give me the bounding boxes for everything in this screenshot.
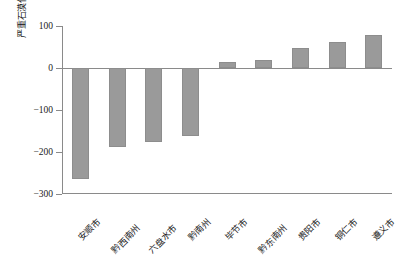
y-tick-label: −100 bbox=[33, 105, 53, 115]
y-tick-mark bbox=[56, 110, 62, 111]
y-axis-title-text: 严重石漠化面积变化/km bbox=[17, 0, 27, 38]
chart-container: 严重石漠化面积变化/km2 1000−100−200−300 安顺市黔西南州六盘… bbox=[0, 0, 410, 273]
bar bbox=[292, 48, 309, 68]
x-tick-label: 黔南州 bbox=[185, 215, 213, 243]
x-tick-label: 贵阳市 bbox=[295, 215, 323, 243]
bar bbox=[145, 68, 162, 142]
x-tick-label: 毕节市 bbox=[222, 215, 250, 243]
bar bbox=[182, 68, 199, 136]
y-tick-label: −200 bbox=[33, 147, 53, 157]
x-tick-label: 黔东南州 bbox=[255, 221, 290, 256]
bar bbox=[72, 68, 89, 179]
x-tick-label: 安顺市 bbox=[75, 215, 103, 243]
bar bbox=[109, 68, 126, 147]
y-tick-label: 100 bbox=[39, 21, 53, 31]
y-tick-mark bbox=[56, 26, 62, 27]
x-tick-label: 遵义市 bbox=[368, 215, 396, 243]
bar bbox=[365, 35, 382, 68]
bar bbox=[219, 62, 236, 68]
y-tick-mark bbox=[56, 194, 62, 195]
bar-series bbox=[62, 26, 392, 194]
y-tick-label: 0 bbox=[48, 63, 53, 73]
bar bbox=[255, 60, 272, 68]
x-tick-label: 六盘水市 bbox=[145, 221, 180, 256]
y-tick-mark bbox=[56, 68, 62, 69]
y-axis-title: 严重石漠化面积变化/km2 bbox=[12, 0, 26, 38]
y-tick-label: −300 bbox=[33, 189, 53, 199]
plot-area: 1000−100−200−300 bbox=[62, 26, 392, 194]
bar bbox=[329, 42, 346, 68]
x-tick-label: 黔西南州 bbox=[108, 221, 143, 256]
x-axis-labels: 安顺市黔西南州六盘水市黔南州毕节市黔东南州贵阳市铜仁市遵义市 bbox=[62, 196, 392, 270]
y-tick-mark bbox=[56, 152, 62, 153]
x-tick-label: 铜仁市 bbox=[332, 215, 360, 243]
